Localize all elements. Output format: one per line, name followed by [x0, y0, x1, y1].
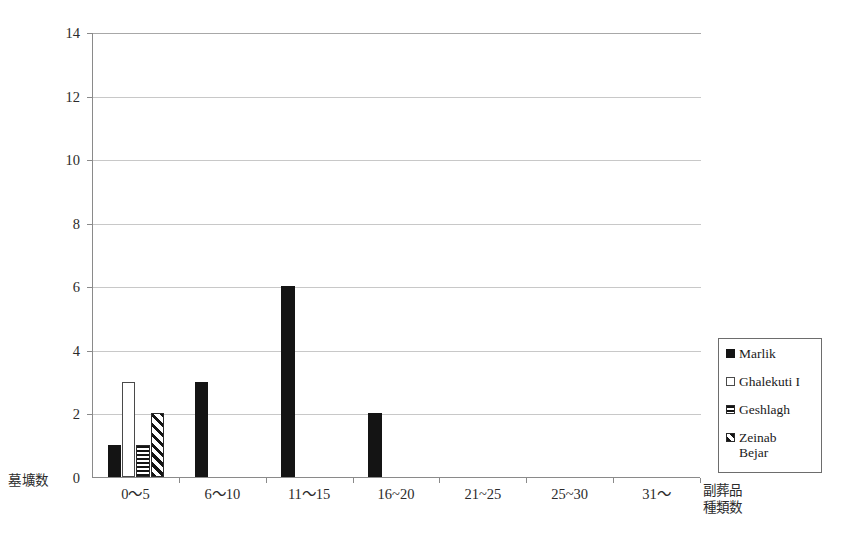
legend-item-marlik[interactable]: Marlik	[726, 346, 821, 361]
legend-item-zeinab-bejar[interactable]: Zeinab Bejar	[726, 430, 821, 460]
x-axis-title-line2: 種類数	[703, 499, 773, 516]
x-tick-mark	[439, 478, 440, 483]
legend-label: Marlik	[739, 346, 776, 361]
legend-swatch-icon	[726, 433, 735, 442]
y-tick-label: 14	[46, 26, 80, 40]
x-tick-mark	[700, 478, 701, 483]
gridline	[93, 414, 701, 415]
y-tick-label: 10	[46, 153, 80, 167]
legend-label: Geshlagh	[739, 402, 790, 417]
bar-marlik-3	[368, 413, 381, 477]
x-tick-mark	[266, 478, 267, 483]
y-tick-label: 0	[46, 471, 80, 485]
x-tick-mark	[526, 478, 527, 483]
y-tick-mark	[87, 224, 92, 225]
gridline	[93, 160, 701, 161]
x-tick-label: 21~25	[433, 486, 533, 502]
y-axis-title: 墓壙数	[8, 469, 49, 489]
gridline	[93, 33, 701, 34]
x-tick-mark	[353, 478, 354, 483]
x-axis-title: 副葬品 種類数	[703, 482, 773, 516]
bar-zeinab-bejar-0	[151, 413, 164, 477]
bar-ghalekuti-i-0	[122, 382, 135, 477]
y-tick-label: 4	[46, 344, 80, 358]
y-tick-label: 12	[46, 90, 80, 104]
x-tick-label: 11〜15	[259, 486, 359, 502]
x-tick-mark	[179, 478, 180, 483]
y-tick-mark	[87, 414, 92, 415]
y-tick-mark	[87, 287, 92, 288]
x-tick-mark	[613, 478, 614, 483]
legend-swatch-icon	[726, 349, 735, 358]
bar-geshlagh-0	[136, 445, 149, 477]
y-tick-mark	[87, 33, 92, 34]
x-tick-label: 0〜5	[85, 486, 185, 502]
legend-label: Zeinab Bejar	[739, 430, 801, 460]
x-tick-label: 6〜10	[172, 486, 272, 502]
x-tick-label: 31〜	[607, 486, 707, 502]
legend-label: Ghalekuti I	[739, 374, 801, 389]
x-tick-label: 16~20	[346, 486, 446, 502]
x-tick-label: 25~30	[520, 486, 620, 502]
legend-item-ghalekuti-i[interactable]: Ghalekuti I	[726, 374, 821, 389]
bar-marlik-2	[281, 286, 294, 477]
legend-swatch-icon	[726, 377, 735, 386]
plot-area	[92, 33, 700, 478]
y-tick-label: 6	[46, 280, 80, 294]
x-axis-title-line1: 副葬品	[703, 482, 773, 499]
chart-figure: 02468101214 墓壙数 0〜56〜1011〜1516~2021~2525…	[0, 0, 843, 542]
gridline	[93, 97, 701, 98]
y-tick-label: 8	[46, 217, 80, 231]
gridline	[93, 351, 701, 352]
legend-swatch-icon	[726, 405, 735, 414]
y-tick-mark	[87, 351, 92, 352]
y-tick-mark	[87, 160, 92, 161]
gridline	[93, 287, 701, 288]
y-tick-mark	[87, 97, 92, 98]
gridline	[93, 224, 701, 225]
y-tick-label: 2	[46, 407, 80, 421]
bar-marlik-1	[195, 382, 208, 477]
chart-legend: MarlikGhalekuti IGeshlaghZeinab Bejar	[718, 338, 822, 473]
bar-marlik-0	[108, 445, 121, 477]
legend-item-geshlagh[interactable]: Geshlagh	[726, 402, 821, 417]
